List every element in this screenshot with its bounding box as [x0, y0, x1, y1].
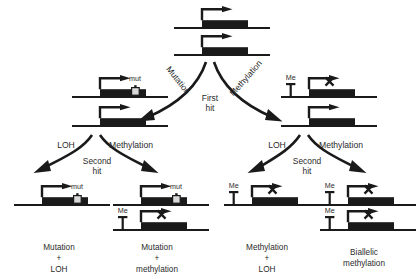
- second-hit-right-center-line2: hit: [303, 166, 313, 176]
- second-hit-left-center-line2: hit: [93, 166, 103, 176]
- allele-row: Me: [224, 181, 320, 205]
- allele-row: Me: [320, 206, 416, 230]
- me-marker-label: Me: [325, 206, 335, 215]
- first-hit-right-label: Methylation: [228, 58, 265, 98]
- me-marker: [325, 216, 334, 230]
- second-hit-right-group-left-label: LOH: [268, 140, 286, 150]
- second-hit-left-group-left-label: LOH: [57, 140, 75, 150]
- outcome-caption-line1: Biallelic: [350, 248, 378, 257]
- allele-row: [174, 33, 270, 55]
- second-hit-left-center-line1: Second: [83, 156, 112, 166]
- outcome-caption-plus: +: [57, 254, 62, 263]
- me-marker-label: Me: [229, 181, 239, 190]
- outcome-caption-plus: +: [265, 254, 270, 263]
- outcome-methylation-loh: Me Methylation + LOH: [224, 181, 320, 274]
- me-marker: [325, 191, 334, 205]
- allele-row: Me: [281, 73, 377, 97]
- me-marker: [118, 216, 127, 230]
- allele-row: [281, 104, 377, 126]
- outcome-caption-line1: Mutation: [43, 243, 75, 252]
- outcome-mutation-loh: mut Mutation + LOH: [14, 182, 110, 274]
- outcome-mutation-methylation: mut Me Mutation + methylation: [113, 182, 209, 274]
- mut-marker-label: mut: [129, 74, 141, 83]
- outcome-caption-plus: +: [155, 254, 160, 263]
- outcome-biallelic-methylation: Me Me Biallelic methylation: [320, 181, 416, 268]
- second-hit-left-group-right-label: Methylation: [109, 140, 153, 150]
- me-marker-label: Me: [325, 181, 335, 190]
- allele-row: Me: [113, 206, 209, 230]
- mut-marker-label: mut: [170, 182, 182, 191]
- node-methylated-allele-pair: Me: [281, 73, 377, 126]
- mut-marker-label: mut: [71, 182, 83, 191]
- first-hit-center-label-line2: hit: [206, 103, 216, 113]
- node-wildtype-gene: [174, 6, 270, 55]
- outcome-caption-line1: Mutation: [141, 243, 173, 252]
- second-hit-right-group-right-label: Methylation: [319, 140, 363, 150]
- outcome-caption-line2: methylation: [136, 265, 178, 274]
- allele-row: Me: [320, 181, 416, 205]
- allele-row: mut: [14, 182, 110, 205]
- mut-marker: [173, 193, 181, 205]
- me-marker-label: Me: [286, 73, 296, 82]
- outcome-caption-line2: methylation: [343, 259, 385, 268]
- first-hit-center-label-line1: First: [202, 93, 219, 103]
- allele-row: [174, 6, 270, 28]
- mut-marker: [132, 85, 140, 97]
- outcome-caption-line1: Methylation: [246, 243, 288, 252]
- mut-marker: [74, 193, 82, 205]
- first-hit-left-label: Mutation: [164, 64, 193, 96]
- diagram-canvas: Mutation Methylation First hit mut: [0, 0, 416, 279]
- outcome-caption-line2: LOH: [259, 265, 276, 274]
- me-marker: [286, 83, 295, 97]
- me-marker: [229, 191, 238, 205]
- outcome-caption-line2: LOH: [51, 265, 68, 274]
- second-hit-right-center-line1: Second: [293, 156, 322, 166]
- allele-row: mut: [113, 182, 209, 205]
- allele-row: mut: [72, 74, 168, 97]
- me-marker-label: Me: [118, 206, 128, 215]
